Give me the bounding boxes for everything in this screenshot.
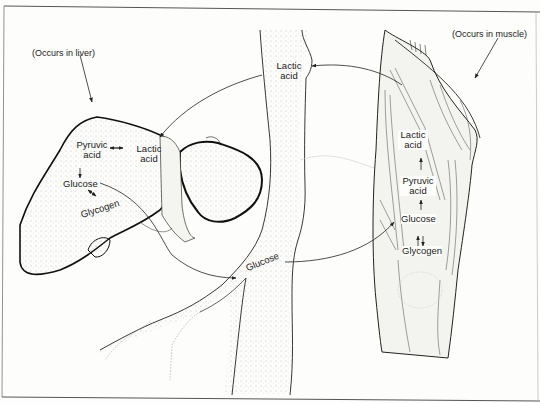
muscle-lactic-acid-label: Lactic acid — [398, 130, 428, 150]
muscle-glucose-label: Glucose — [401, 214, 436, 224]
liver-drawing — [20, 117, 262, 274]
caption-liver: (Occurs in liver) — [32, 48, 95, 58]
muscle-glycogen-label: Glycogen — [402, 246, 442, 256]
diagram-canvas: (Occurs in liver) (Occurs in muscle) Pyr… — [0, 0, 540, 403]
liver-lactic-acid-label: Lactic acid — [134, 144, 164, 164]
illustration — [0, 0, 540, 403]
muscle-pyruvic-acid-label: Pyruvic acid — [400, 176, 436, 196]
vessel-lactic-acid-label: Lactic acid — [274, 61, 304, 81]
liver-pyruvic-acid-label: Pyruvic acid — [74, 140, 110, 160]
liver-glucose-label: Glucose — [63, 179, 98, 189]
caption-muscle: (Occurs in muscle) — [452, 29, 527, 39]
